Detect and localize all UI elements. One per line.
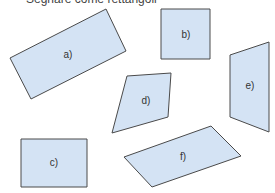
shape-c-label: c)	[50, 157, 58, 168]
shape-a: a)	[10, 9, 126, 99]
shape-d-label: d)	[142, 95, 151, 106]
shape-b-label: b)	[182, 29, 191, 40]
shape-d: d)	[112, 73, 171, 133]
shape-a-label: a)	[64, 49, 73, 60]
shape-f: f)	[124, 126, 241, 187]
shape-b: b)	[161, 9, 210, 59]
shape-e-label: e)	[246, 80, 255, 91]
shape-c: c)	[21, 139, 87, 187]
shape-f-label: f)	[180, 151, 186, 162]
shape-e: e)	[230, 42, 269, 132]
quadrilaterals-diagram: a) b) c) d) e) f)	[0, 0, 275, 193]
